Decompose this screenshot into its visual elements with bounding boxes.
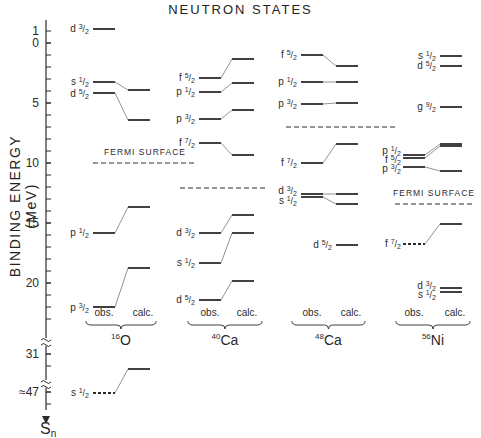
orbital-letter: s xyxy=(279,195,287,206)
axis-break-icon xyxy=(41,381,51,384)
axis-break-icon xyxy=(41,339,51,342)
j-denominator: 2 xyxy=(85,93,89,100)
connector-line xyxy=(323,197,336,204)
j-denominator: 2 xyxy=(191,299,195,306)
obs-column-label: obs. xyxy=(201,307,220,318)
connector-line xyxy=(323,144,336,163)
j-denominator: 2 xyxy=(293,81,297,88)
j-denominator: 2 xyxy=(191,232,195,239)
level-label: p 3/2 xyxy=(176,113,195,125)
level-label: d 5/2 xyxy=(70,88,89,100)
j-denominator: 2 xyxy=(191,142,195,149)
j-denominator: 2 xyxy=(191,91,195,98)
j-denominator: 2 xyxy=(432,65,436,72)
element-symbol: Ca xyxy=(221,332,239,348)
brace-icon xyxy=(292,321,365,329)
element-symbol: O xyxy=(120,332,131,348)
bottom-axis-subscript: n xyxy=(51,428,57,438)
connector-line xyxy=(425,167,440,171)
y-tick-label: 20 xyxy=(26,276,40,290)
orbital-letter: d xyxy=(176,227,184,238)
orbital-letter: p xyxy=(70,227,78,238)
j-denominator: 2 xyxy=(85,392,89,399)
j-denominator: 2 xyxy=(432,106,436,113)
j-denominator: 2 xyxy=(293,103,297,110)
orbital-letter: s xyxy=(71,76,79,87)
orbital-letter: d xyxy=(313,239,321,250)
j-denominator: 2 xyxy=(85,81,89,88)
obs-column-label: obs. xyxy=(303,307,322,318)
level-label: p 3/2 xyxy=(278,98,297,110)
connector-line xyxy=(425,224,440,244)
j-denominator: 2 xyxy=(293,190,297,197)
plot-area: 10510152031≈47SnFERMI SURFACEd 3/2s 1/2d… xyxy=(0,0,481,438)
fermi-surface-label: FERMI SURFACE xyxy=(104,147,186,157)
connector-line xyxy=(221,215,232,233)
connector-line xyxy=(115,82,128,90)
orbital-letter: d xyxy=(70,88,78,99)
j-denominator: 2 xyxy=(293,162,297,169)
level-label: f 7/2 xyxy=(385,238,401,250)
j-denominator: 2 xyxy=(293,200,297,207)
j-denominator: 2 xyxy=(397,150,401,157)
calc-column-label: calc. xyxy=(445,307,466,318)
level-label: s 1/2 xyxy=(71,76,89,88)
orbital-letter: p xyxy=(382,163,390,174)
j-denominator: 2 xyxy=(432,285,436,292)
nucleus-label: 16O xyxy=(111,332,131,348)
connector-line xyxy=(115,93,128,120)
j-denominator: 2 xyxy=(85,28,89,35)
obs-column-label: obs. xyxy=(95,307,114,318)
connector-line xyxy=(221,143,232,155)
orbital-letter: s xyxy=(71,387,79,398)
level-label: d 3/2 xyxy=(70,23,89,35)
j-denominator: 2 xyxy=(397,168,401,175)
brace-icon xyxy=(396,321,470,329)
level-label: p 1/2 xyxy=(278,76,297,88)
j-denominator: 2 xyxy=(191,118,195,125)
level-label: f 7/2 xyxy=(179,137,195,149)
level-label: p 1/2 xyxy=(176,86,195,98)
connector-line xyxy=(425,146,440,158)
nucleus-label: 48Ca xyxy=(315,332,342,348)
orbital-letter: g xyxy=(417,101,425,112)
level-label: f 5/2 xyxy=(179,72,195,84)
y-tick-label: 5 xyxy=(32,96,39,110)
y-tick-label: ≈47 xyxy=(19,385,39,399)
orbital-letter: p xyxy=(176,86,184,97)
level-label: g 9/2 xyxy=(417,101,436,113)
fermi-surface-label: FERMI SURFACE xyxy=(393,188,475,198)
orbital-letter: d xyxy=(417,60,425,71)
level-label: f 5/2 xyxy=(281,49,297,61)
orbital-letter: p xyxy=(70,302,78,313)
nucleus-label: 56Ni xyxy=(422,332,444,348)
calc-column-label: calc. xyxy=(237,307,258,318)
brace-icon xyxy=(86,321,156,329)
nucleus-label: 40Ca xyxy=(212,332,239,348)
j-denominator: 2 xyxy=(432,294,436,301)
element-symbol: Ca xyxy=(324,332,342,348)
j-denominator: 2 xyxy=(191,262,195,269)
obs-column-label: obs. xyxy=(405,307,424,318)
connector-line xyxy=(425,144,440,155)
j-denominator: 2 xyxy=(397,159,401,166)
calc-column-label: calc. xyxy=(133,307,154,318)
level-label: s 1/2 xyxy=(71,387,89,399)
j-denominator: 2 xyxy=(293,54,297,61)
orbital-letter: d xyxy=(70,23,78,34)
connector-line xyxy=(221,233,232,263)
connector-line xyxy=(221,281,232,300)
y-tick-label: 10 xyxy=(26,156,40,170)
connector-line xyxy=(115,369,128,393)
j-denominator: 2 xyxy=(191,77,195,84)
brace-icon xyxy=(188,321,262,329)
level-label: f 7/2 xyxy=(281,157,297,169)
level-label: d 5/2 xyxy=(176,294,195,306)
level-label: p 1/2 xyxy=(70,227,89,239)
connector-line xyxy=(221,59,232,78)
bottom-axis-label: Sn xyxy=(40,420,56,438)
level-label: d 5/2 xyxy=(313,239,332,251)
connector-line xyxy=(221,83,232,92)
orbital-letter: s xyxy=(177,257,185,268)
connector-line xyxy=(323,55,336,66)
